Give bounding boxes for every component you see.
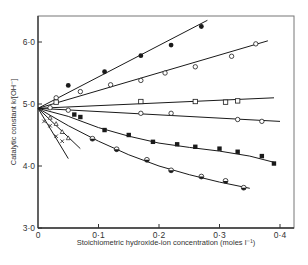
open-squares-marker <box>54 100 58 104</box>
open-circles-marker <box>139 111 143 115</box>
filled-squares-marker <box>217 146 221 150</box>
chart: 3·04·05·06·0 00·10·20·30·4 Stoichiometri… <box>0 0 308 265</box>
filled-circles-marker <box>102 69 107 74</box>
open-squares-marker <box>223 100 227 104</box>
plot-frame <box>38 16 294 228</box>
filled-squares-marker <box>127 133 131 137</box>
filled-squares-marker <box>102 128 106 132</box>
open-diamonds-line <box>38 41 268 109</box>
open-diamonds-marker <box>108 83 112 87</box>
open-triangles-marker <box>54 122 58 126</box>
open-diamonds-marker <box>229 54 233 58</box>
open-circles-marker <box>48 106 52 110</box>
x-tick-label: 0·4 <box>274 230 287 240</box>
filled-circles-marker <box>169 43 174 48</box>
y-axis: 3·04·05·06·0 <box>23 16 42 233</box>
filled-squares-marker <box>260 154 264 158</box>
filled-circles-marker <box>199 24 204 29</box>
open-diamonds-marker <box>254 42 258 46</box>
filled-circles-line <box>38 20 207 108</box>
crosses-marker <box>60 139 64 143</box>
open-circles-marker <box>235 117 239 121</box>
open-circles-marker <box>260 119 264 123</box>
filled-circles-marker <box>138 53 143 58</box>
y-tick-label: 6·0 <box>23 37 36 47</box>
filled-squares-marker <box>235 150 239 154</box>
series-lines <box>38 20 280 188</box>
x-axis-title: Stoichiometric hydroxide-ion concentrati… <box>77 238 256 247</box>
filled-squares-marker <box>272 161 276 165</box>
open-diamonds-marker <box>193 65 197 69</box>
filled-squares-marker <box>151 140 155 144</box>
open-diamonds-marker <box>54 96 58 100</box>
open-squares-marker <box>139 99 143 103</box>
y-tick-label: 3·0 <box>23 223 36 233</box>
filled-squares-marker <box>175 142 179 146</box>
y-tick-label: 4·0 <box>23 161 36 171</box>
filled-squares-marker <box>193 145 197 149</box>
x-tick-label: 0 <box>36 230 41 240</box>
y-tick-label: 5·0 <box>23 99 36 109</box>
open-squares-marker <box>235 99 239 103</box>
open-circles-marker <box>66 108 70 112</box>
open-squares-marker <box>193 99 197 103</box>
y-axis-title: Catalytic constant k/[OH⁻] <box>9 79 18 166</box>
open-diamonds-marker <box>139 78 143 82</box>
open-diamonds-marker <box>163 71 167 75</box>
open-circles-marker <box>169 111 173 115</box>
filled-squares-marker <box>72 112 76 116</box>
filled-circles-marker <box>66 83 71 88</box>
filled-squares-marker <box>78 115 82 119</box>
open-diamonds-marker <box>78 89 82 93</box>
